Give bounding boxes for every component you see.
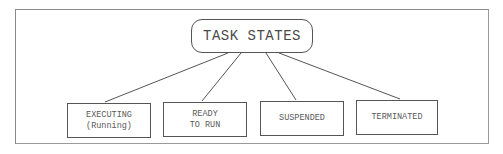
state-executing-node: EXECUTING (Running)	[67, 103, 151, 138]
state-ready-node: READY TO RUN	[163, 102, 247, 137]
state-terminated-node: TERMINATED	[356, 100, 438, 135]
state-terminated-label: TERMINATED	[371, 112, 422, 123]
state-suspended-node: SUSPENDED	[260, 101, 344, 136]
root-label: TASK STATES	[203, 28, 301, 44]
task-states-root-node: TASK STATES	[191, 19, 313, 53]
state-executing-label: EXECUTING	[86, 110, 132, 121]
state-suspended-label: SUSPENDED	[279, 113, 325, 124]
state-ready-label: READY	[192, 109, 218, 120]
state-executing-sublabel: (Running)	[86, 121, 132, 132]
state-ready-sublabel: TO RUN	[190, 120, 221, 131]
